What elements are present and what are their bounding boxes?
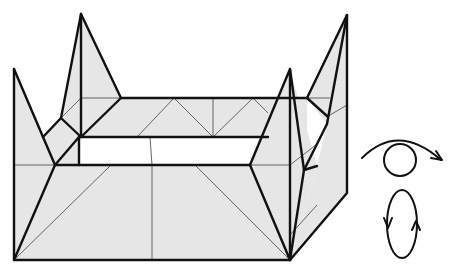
box-opening [79,137,258,165]
origami-diagram [0,0,461,273]
rotate-ellipse-icon [384,190,420,258]
view-change-eye-icon [362,140,442,176]
origami-box-illustration [0,0,461,273]
